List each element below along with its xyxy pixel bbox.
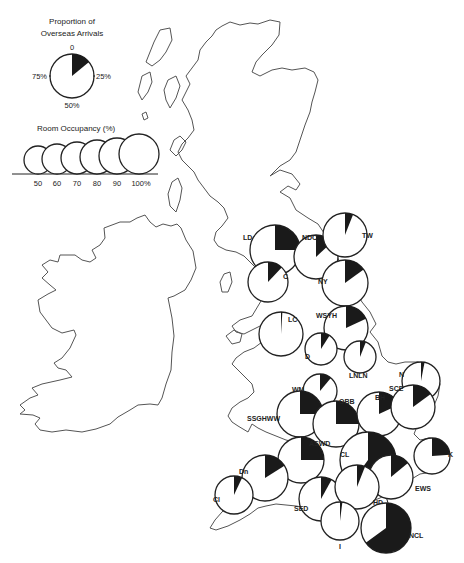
- coastline-ireland: [20, 215, 196, 432]
- map-figure: Proportion of Overseas Arrivals 0 25% 50…: [0, 0, 464, 563]
- region-pie-ncl: NCL: [361, 503, 424, 553]
- region-label: NY: [318, 278, 328, 285]
- region-pie-cl: Cl: [213, 476, 253, 514]
- region-label: LC: [288, 316, 297, 323]
- region-label: CL: [340, 451, 350, 458]
- region-label: NCL: [409, 532, 424, 539]
- region-label: NDC: [302, 234, 317, 241]
- occupancy-label-60: 60: [53, 179, 61, 188]
- region-pie-c: C: [248, 262, 288, 302]
- legend-proportion-title-1: Proportion of: [49, 17, 96, 26]
- occupancy-label-90: 90: [113, 179, 121, 188]
- map-canvas: Proportion of Overseas Arrivals 0 25% 50…: [0, 0, 464, 563]
- region-pie-d: D: [305, 333, 337, 365]
- legend-proportion: Proportion of Overseas Arrivals 0 25% 50…: [32, 17, 111, 110]
- region-label: D: [305, 353, 310, 360]
- region-label: LD: [243, 234, 252, 241]
- region-label: SCE: [389, 385, 404, 392]
- legend-proportion-title-2: Overseas Arrivals: [41, 29, 104, 38]
- region-label: N: [399, 371, 404, 378]
- region-pie-ssghww: SSGHWW: [247, 391, 323, 437]
- legend-occupancy-title: Room Occupancy (%): [37, 124, 116, 133]
- region-label: K: [448, 451, 453, 458]
- region-label: WSYH: [316, 312, 337, 319]
- region-label: I: [339, 543, 341, 550]
- region-label: OBB: [339, 398, 355, 405]
- region-pie-lnln: LNLN: [344, 341, 376, 379]
- region-label: TW: [362, 232, 373, 239]
- region-pie-k: K: [414, 438, 453, 474]
- region-label: ASWD: [309, 440, 330, 447]
- region-pie-i: I: [321, 502, 359, 550]
- occupancy-label-80: 80: [93, 179, 101, 188]
- occupancy-label-50: 50: [34, 179, 42, 188]
- region-pie-tw: TW: [323, 213, 373, 257]
- legend-occupancy: Room Occupancy (%) 50 60 70 80 90 100%: [12, 124, 159, 188]
- legend-tick-50: 50%: [64, 101, 79, 110]
- region-label: Cl: [213, 496, 220, 503]
- region-label: Dn: [239, 468, 248, 475]
- region-pies: LDCNDCTWNYWSYHLCDLNLNNWMSSGHWWOBBBHSCECL…: [213, 213, 453, 553]
- region-label: BH: [375, 394, 385, 401]
- region-pie-lc: LC: [259, 312, 303, 356]
- legend-tick-75: 75%: [32, 72, 47, 81]
- legend-tick-25: 25%: [96, 72, 111, 81]
- occupancy-label-70: 70: [73, 179, 81, 188]
- region-label: SED: [294, 505, 308, 512]
- region-label: SSGHWW: [247, 415, 280, 422]
- occupancy-label-100: 100%: [131, 179, 151, 188]
- region-label: EWS: [415, 485, 431, 492]
- region-label: C: [283, 273, 288, 280]
- legend-tick-0: 0: [70, 43, 74, 52]
- region-label: LNLN: [349, 372, 368, 379]
